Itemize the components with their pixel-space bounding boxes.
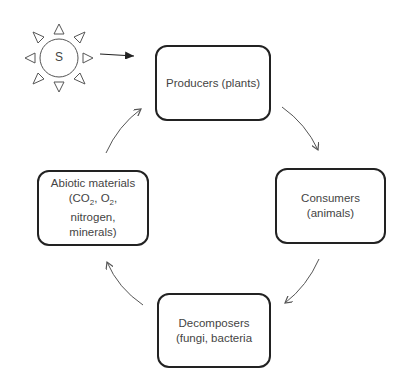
abiotic-gases: (CO2, O2,	[51, 191, 135, 210]
consumers-label: Consumers	[301, 191, 360, 206]
producers-label: Producers (plants)	[166, 76, 260, 91]
node-producers: Producers (plants)	[155, 45, 271, 121]
abiotic-minerals: minerals)	[51, 225, 135, 240]
sunlight-arrow	[100, 54, 134, 56]
decomposers-label: Decomposers	[176, 316, 252, 331]
decomposers-sublabel: (fungi, bacteria	[176, 331, 252, 346]
arrow-abiotic-to-producers	[106, 109, 141, 153]
arrow-decomposers-to-abiotic	[107, 262, 143, 305]
abiotic-nitrogen: nitrogen,	[51, 210, 135, 225]
node-abiotic: Abiotic materials (CO2, O2, nitrogen, mi…	[37, 170, 149, 246]
sun-label: S	[55, 50, 63, 64]
arrow-producers-to-consumers	[282, 107, 318, 150]
node-decomposers: Decomposers (fungi, bacteria	[157, 293, 271, 368]
node-consumers: Consumers (animals)	[275, 168, 386, 244]
consumers-sublabel: (animals)	[301, 206, 360, 221]
arrow-consumers-to-decomposers	[285, 259, 319, 303]
abiotic-label: Abiotic materials	[51, 176, 135, 191]
